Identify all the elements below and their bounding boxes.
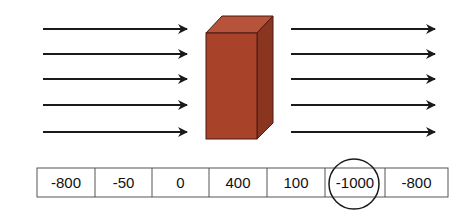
cell-value-circled: -1000 <box>336 174 374 191</box>
cell-value: 0 <box>176 174 184 191</box>
cell-value: 400 <box>225 174 250 191</box>
right-arrows <box>291 29 435 132</box>
cell-value: -800 <box>401 174 431 191</box>
left-arrows <box>43 29 187 132</box>
cell-value: -50 <box>113 174 135 191</box>
cell-value: 100 <box>283 174 308 191</box>
block-front-face <box>206 33 257 139</box>
diagram: -800 -50 0 400 100 -1000 -800 <box>0 0 471 219</box>
cell-value: -800 <box>51 174 81 191</box>
value-row: -800 -50 0 400 100 -1000 -800 <box>37 168 448 197</box>
block-side-face <box>257 16 273 139</box>
brick-block <box>206 16 273 139</box>
